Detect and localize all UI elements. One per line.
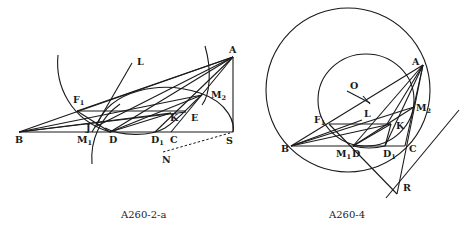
label-N: N <box>162 154 171 165</box>
label-B: B <box>281 143 289 154</box>
label-D1: D1 <box>383 148 396 161</box>
label-F1: F1 <box>73 94 84 107</box>
figure-a260-2-a: A B C D D1 E F1 J K L M1 M2 N S A260-2-a <box>15 44 237 220</box>
label-C: C <box>170 134 178 145</box>
caption-a260-4: A260-4 <box>328 209 365 220</box>
arc-left <box>58 55 110 132</box>
outer-circle <box>266 8 430 172</box>
label-K: K <box>170 112 179 123</box>
label-L: L <box>364 108 371 119</box>
geometry-figures: A B C D D1 E F1 J K L M1 M2 N S A260-2-a <box>0 0 470 226</box>
label-M1: M1 <box>336 148 351 161</box>
label-A: A <box>411 56 420 67</box>
label-D1: D1 <box>151 134 164 147</box>
label-D: D <box>109 134 117 145</box>
label-O: O <box>350 80 358 91</box>
label-K: K <box>396 120 405 131</box>
label-B: B <box>15 134 23 145</box>
label-F1: F1 <box>314 114 325 127</box>
label-R: R <box>403 182 411 193</box>
label-J: J <box>85 122 91 133</box>
label-L: L <box>137 56 144 67</box>
label-M2: M2 <box>211 89 226 102</box>
label-E: E <box>191 112 198 123</box>
line-AF1 <box>77 57 233 111</box>
caption-a260-2-a: A260-2-a <box>120 209 166 220</box>
line-DM2 <box>110 95 202 132</box>
label-C: C <box>409 143 417 154</box>
line-AB <box>291 65 423 146</box>
segment-OL <box>347 91 370 103</box>
label-M1: M1 <box>77 134 92 147</box>
label-S: S <box>226 135 233 146</box>
label-D: D <box>352 148 360 159</box>
figure-a260-4: A B C D D1 F1 K L M1 M2 O R A260-4 <box>266 8 459 220</box>
label-A: A <box>228 44 237 55</box>
